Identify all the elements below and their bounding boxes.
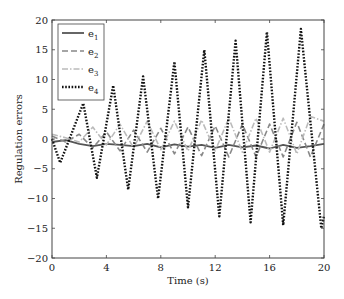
x-tick-label: 0 bbox=[49, 262, 55, 273]
y-tick-label: 10 bbox=[35, 74, 48, 85]
x-tick-label: 8 bbox=[158, 262, 164, 273]
x-tick-label: 4 bbox=[103, 262, 109, 273]
y-tick-label: −5 bbox=[33, 163, 48, 174]
legend: e1e2e3e4 bbox=[58, 24, 104, 100]
x-tick-label: 16 bbox=[263, 262, 276, 273]
y-tick-label: −10 bbox=[27, 193, 48, 204]
y-tick-label: 5 bbox=[42, 104, 48, 115]
y-tick-label: −20 bbox=[27, 253, 48, 264]
y-tick-label: 15 bbox=[35, 44, 48, 55]
y-tick-label: 20 bbox=[35, 15, 48, 26]
x-tick-label: 20 bbox=[318, 262, 331, 273]
x-axis-label: Time (s) bbox=[167, 275, 208, 286]
y-tick-label: 0 bbox=[42, 134, 48, 145]
y-tick-label: −15 bbox=[27, 223, 48, 234]
regulation-errors-chart: −20−15−10−505101520 048121620 Time (s) R… bbox=[0, 0, 344, 299]
x-tick-label: 12 bbox=[209, 262, 222, 273]
y-axis-label: Regulation errors bbox=[13, 94, 24, 184]
